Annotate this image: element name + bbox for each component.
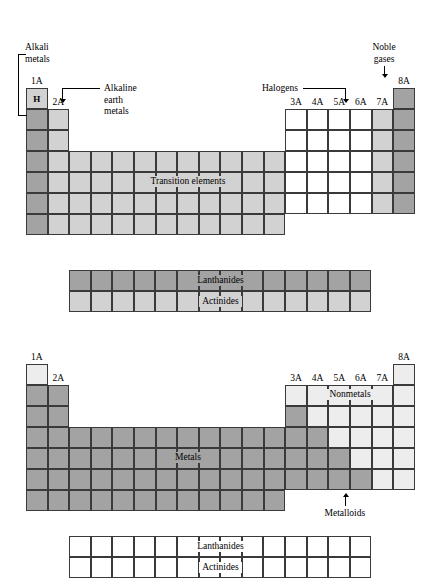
- actinide-cell-bottom: [91, 557, 113, 578]
- callout-halogens-line: Halogens: [262, 83, 298, 95]
- periodic-cell-bottom: [26, 427, 48, 448]
- periodic-cell-bottom: [307, 469, 329, 490]
- actinide-cell-bottom: [177, 557, 199, 578]
- periodic-cell-bottom: [350, 448, 372, 469]
- periodic-cell-top: [91, 151, 113, 172]
- periodic-cell-top: [350, 193, 372, 214]
- lanthanide-cell-bottom: [307, 536, 329, 557]
- periodic-cell-top: [134, 151, 156, 172]
- periodic-cell-bottom: [134, 490, 156, 511]
- periodic-cell-bottom: [393, 448, 415, 469]
- callout-metalloids-line: Metalloids: [325, 508, 366, 520]
- periodic-cell-bottom: [242, 427, 264, 448]
- periodic-cell-top: [285, 172, 307, 193]
- periodic-cell-bottom: [69, 427, 91, 448]
- periodic-cell-bottom: [393, 364, 415, 385]
- callout-alkali-metals: Alkalimetals: [25, 42, 50, 65]
- periodic-cell-bottom: [156, 490, 178, 511]
- periodic-cell-bottom: [285, 406, 307, 427]
- periodic-cell-bottom: [328, 427, 350, 448]
- periodic-cell-bottom: [372, 469, 394, 490]
- actinide-cell-bottom: [350, 557, 372, 578]
- periodic-cell-bottom: [372, 448, 394, 469]
- periodic-cell-top: [134, 193, 156, 214]
- alkaline-leader-horiz: [62, 88, 100, 89]
- periodic-cell-bottom: [220, 427, 242, 448]
- actinide-cell-bottom: [134, 557, 156, 578]
- periodic-cell-bottom: [285, 448, 307, 469]
- callout-metalloids: Metalloids: [325, 508, 366, 520]
- actinide-cell-top: [328, 291, 350, 312]
- periodic-cell-top: [199, 193, 221, 214]
- periodic-cell-bottom: [285, 427, 307, 448]
- periodic-cell-bottom: [328, 406, 350, 427]
- actinide-cell-top: [69, 291, 91, 312]
- periodic-cell-top: [285, 193, 307, 214]
- periodic-cell-bottom: [372, 406, 394, 427]
- periodic-cell-bottom: [220, 448, 242, 469]
- periodic-table-figure: H1A2A3A4A5A6A7A8A1A2A3A4A5A6A7A8ATransit…: [0, 0, 422, 584]
- periodic-cell-bottom: [91, 469, 113, 490]
- caption-actinides-bottom: Actinides: [199, 562, 241, 573]
- periodic-cell-top: [372, 130, 394, 151]
- lanthanide-cell-top: [134, 270, 156, 291]
- periodic-cell-bottom: [26, 490, 48, 511]
- actinide-cell-top: [307, 291, 329, 312]
- caption-actinides-top: Actinides: [199, 296, 241, 307]
- periodic-cell-top: [350, 172, 372, 193]
- hydrogen-cell: H: [26, 88, 48, 109]
- actinide-cell-top: [91, 291, 113, 312]
- periodic-cell-bottom: [91, 427, 113, 448]
- periodic-cell-top: [393, 88, 415, 109]
- periodic-cell-top: [242, 172, 264, 193]
- lanthanide-cell-top: [112, 270, 134, 291]
- group-header-top-4A: 4A: [307, 97, 329, 108]
- periodic-cell-top: [26, 172, 48, 193]
- periodic-cell-top: [393, 130, 415, 151]
- callout-alkaline-earth-metals-line: metals: [104, 106, 137, 118]
- periodic-cell-top: [307, 172, 329, 193]
- group-header-top-3A: 3A: [285, 97, 307, 108]
- actinide-cell-bottom: [285, 557, 307, 578]
- periodic-cell-bottom: [372, 427, 394, 448]
- actinide-cell-bottom: [307, 557, 329, 578]
- periodic-cell-bottom: [26, 469, 48, 490]
- group-header-bottom-4A: 4A: [307, 373, 329, 384]
- periodic-cell-bottom: [199, 490, 221, 511]
- callout-alkali-metals-line: Alkali: [25, 42, 50, 54]
- periodic-cell-bottom: [350, 469, 372, 490]
- periodic-cell-bottom: [328, 448, 350, 469]
- periodic-cell-top: [26, 130, 48, 151]
- periodic-cell-bottom: [26, 406, 48, 427]
- periodic-cell-bottom: [242, 448, 264, 469]
- periodic-cell-bottom: [134, 448, 156, 469]
- group-header-top-1A: 1A: [26, 76, 48, 87]
- lanthanide-cell-bottom: [328, 536, 350, 557]
- periodic-cell-top: [328, 193, 350, 214]
- periodic-cell-top: [350, 151, 372, 172]
- periodic-cell-top: [112, 151, 134, 172]
- periodic-cell-bottom: [199, 427, 221, 448]
- callout-halogens: Halogens: [262, 83, 298, 95]
- callout-noble-gases: Noblegases: [373, 42, 396, 65]
- periodic-cell-top: [242, 193, 264, 214]
- periodic-cell-bottom: [134, 427, 156, 448]
- callout-alkaline-earth-metals-line: Alkaline: [104, 83, 137, 95]
- periodic-cell-top: [91, 214, 113, 235]
- periodic-cell-top: [199, 214, 221, 235]
- periodic-cell-top: [177, 151, 199, 172]
- actinide-cell-top: [350, 291, 372, 312]
- periodic-cell-bottom: [48, 427, 70, 448]
- callout-alkaline-earth-metals: Alkalineearthmetals: [104, 83, 137, 118]
- periodic-cell-top: [26, 109, 48, 130]
- periodic-cell-bottom: [26, 385, 48, 406]
- periodic-cell-top: [307, 151, 329, 172]
- periodic-cell-bottom: [177, 469, 199, 490]
- lanthanide-cell-top: [263, 270, 285, 291]
- periodic-cell-bottom: [91, 490, 113, 511]
- periodic-cell-bottom: [242, 469, 264, 490]
- actinide-cell-bottom: [242, 557, 264, 578]
- periodic-cell-bottom: [220, 469, 242, 490]
- periodic-cell-top: [156, 214, 178, 235]
- actinide-cell-top: [112, 291, 134, 312]
